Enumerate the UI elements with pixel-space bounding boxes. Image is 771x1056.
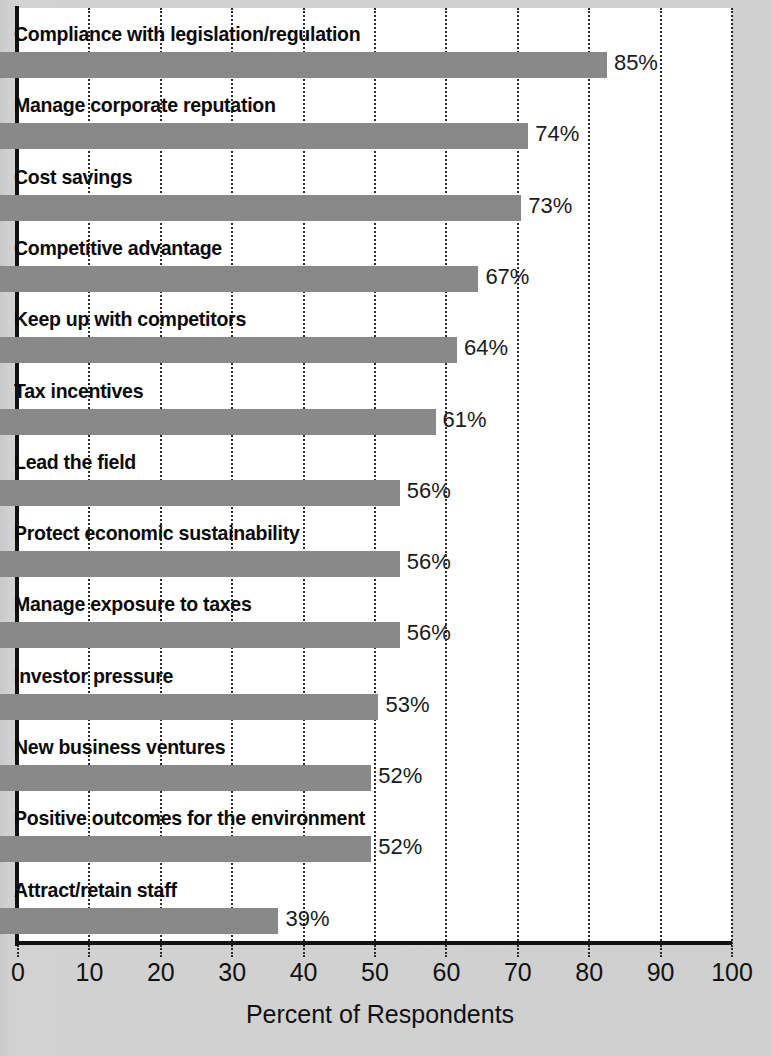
x-axis-line (16, 941, 732, 945)
bar-value-label: 85% (614, 50, 658, 76)
x-axis-tick-label-40: 40 (290, 958, 318, 987)
bar-value-label: 74% (535, 121, 579, 147)
bar[interactable] (0, 836, 371, 862)
x-axis-tick-70 (517, 945, 519, 957)
x-axis-tick-label-90: 90 (647, 958, 675, 987)
x-axis-tick-label-70: 70 (504, 958, 532, 987)
bar[interactable] (0, 694, 378, 720)
bar-category-label: Manage corporate reputation (14, 93, 276, 117)
x-axis-tick-80 (588, 945, 590, 957)
bar[interactable] (0, 123, 528, 149)
bar-group: Attract/retain staff39% (0, 864, 714, 935)
bar-value-label: 67% (485, 264, 529, 290)
bar[interactable] (0, 622, 400, 648)
x-axis-tick-label-80: 80 (575, 958, 603, 987)
bar-group: Positive outcomes for the environment52% (0, 792, 714, 863)
bar[interactable] (0, 551, 400, 577)
bar-category-label: Protect economic sustainability (14, 521, 299, 545)
bar-group: Investor pressure53% (0, 650, 714, 721)
bar-category-label: Attract/retain staff (14, 878, 177, 902)
x-axis-tick-label-20: 20 (147, 958, 175, 987)
chart-figure: Compliance with legislation/regulation85… (0, 0, 771, 1056)
bar-value-label: 39% (285, 906, 329, 932)
bar-group: Competitive advantage67% (0, 222, 714, 293)
bar-value-label: 56% (407, 549, 451, 575)
bar-category-label: Lead the field (14, 450, 136, 474)
x-axis-tick-label-0: 0 (11, 958, 25, 987)
bar-category-label: New business ventures (14, 735, 225, 759)
bar-category-label: Keep up with competitors (14, 307, 246, 331)
bar-group: Protect economic sustainability56% (0, 507, 714, 578)
bar-value-label: 52% (378, 834, 422, 860)
bar-category-label: Investor pressure (14, 664, 173, 688)
bar[interactable] (0, 337, 457, 363)
bar-group: Compliance with legislation/regulation85… (0, 8, 714, 79)
gridline-100 (731, 8, 733, 944)
x-axis-title: Percent of Respondents (0, 1000, 760, 1029)
x-axis-tick-90 (660, 945, 662, 957)
bar-value-label: 64% (464, 335, 508, 361)
bar-value-label: 61% (443, 407, 487, 433)
x-axis-tick-label-60: 60 (432, 958, 460, 987)
x-axis-tick-50 (374, 945, 376, 957)
bar-group: Manage exposure to taxes56% (0, 578, 714, 649)
bar-value-label: 73% (528, 193, 572, 219)
bar-group: Cost savings73% (0, 151, 714, 222)
bar[interactable] (0, 409, 436, 435)
bar-category-label: Compliance with legislation/regulation (14, 22, 360, 46)
x-axis-tick-30 (231, 945, 233, 957)
x-axis-tick-10 (88, 945, 90, 957)
bar-group: New business ventures52% (0, 721, 714, 792)
x-axis-tick-label-30: 30 (218, 958, 246, 987)
x-axis-tick-label-10: 10 (75, 958, 103, 987)
bar[interactable] (0, 195, 521, 221)
bar[interactable] (0, 480, 400, 506)
x-axis-tick-60 (445, 945, 447, 957)
bar[interactable] (0, 908, 278, 934)
x-axis-tick-40 (303, 945, 305, 957)
x-axis-tick-100 (731, 945, 733, 957)
bar-group: Lead the field56% (0, 436, 714, 507)
bar-category-label: Positive outcomes for the environment (14, 806, 365, 830)
bar[interactable] (0, 266, 478, 292)
bar-group: Tax incentives61% (0, 365, 714, 436)
bar-value-label: 56% (407, 620, 451, 646)
bar-category-label: Manage exposure to taxes (14, 592, 252, 616)
bar-value-label: 53% (385, 692, 429, 718)
bar[interactable] (0, 765, 371, 791)
bar-category-label: Cost savings (14, 165, 132, 189)
x-axis-tick-20 (160, 945, 162, 957)
bar-value-label: 56% (407, 478, 451, 504)
x-axis-tick-label-100: 100 (711, 958, 753, 987)
bar-category-label: Competitive advantage (14, 236, 222, 260)
bar-group: Manage corporate reputation74% (0, 79, 714, 150)
x-axis-tick-0 (17, 945, 19, 957)
x-axis-tick-label-50: 50 (361, 958, 389, 987)
bar-category-label: Tax incentives (14, 379, 143, 403)
bar[interactable] (0, 52, 607, 78)
bar-value-label: 52% (378, 763, 422, 789)
bar-group: Keep up with competitors64% (0, 293, 714, 364)
